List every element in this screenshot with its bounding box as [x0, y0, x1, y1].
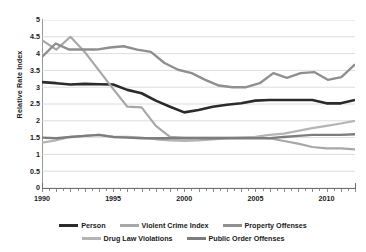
- legend-item[interactable]: Property Offenses: [223, 221, 307, 230]
- legend-row: Drug Law ViolationsPublic Order Offenses: [0, 232, 366, 245]
- x-tick-mark: [49, 189, 50, 191]
- x-tick-mark: [334, 189, 335, 191]
- legend-item[interactable]: Drug Law Violations: [82, 234, 173, 243]
- x-tick-mark: [355, 189, 356, 192]
- x-tick-mark: [255, 189, 256, 192]
- legend-label: Drug Law Violations: [104, 234, 173, 243]
- x-tick-mark: [291, 189, 292, 191]
- x-tick-mark: [113, 189, 114, 192]
- legend-item[interactable]: Violent Crime Index: [120, 221, 209, 230]
- legend-color-swatch: [82, 237, 101, 240]
- y-tick-label: 0: [0, 184, 40, 191]
- x-tick-mark: [134, 189, 135, 191]
- plot-area: [42, 20, 355, 188]
- x-tick-mark: [234, 189, 235, 191]
- legend-item[interactable]: Public Order Offenses: [187, 234, 285, 243]
- x-tick-mark: [319, 189, 320, 191]
- series-line: [42, 44, 355, 88]
- x-tick-mark: [42, 189, 43, 192]
- x-axis-end-cap: [355, 183, 356, 189]
- x-tick-mark: [248, 189, 249, 191]
- legend-label: Public Order Offenses: [209, 234, 285, 243]
- chart-legend: PersonViolent Crime IndexProperty Offens…: [0, 219, 366, 245]
- x-tick-mark: [99, 189, 100, 192]
- x-tick-mark: [312, 189, 313, 192]
- legend-color-swatch: [120, 224, 139, 227]
- x-tick-mark: [305, 189, 306, 191]
- x-tick-mark: [177, 189, 178, 191]
- legend-color-swatch: [59, 224, 78, 227]
- x-tick-label: 1990: [22, 194, 62, 203]
- x-tick-mark: [341, 189, 342, 192]
- y-tick-label: 1: [0, 151, 40, 158]
- x-tick-mark: [270, 189, 271, 192]
- x-tick-mark: [106, 189, 107, 191]
- legend-label: Property Offenses: [245, 221, 307, 230]
- x-tick-label: 2005: [235, 194, 275, 203]
- legend-label: Violent Crime Index: [142, 221, 209, 230]
- legend-row: PersonViolent Crime IndexProperty Offens…: [0, 219, 366, 232]
- legend-label: Person: [81, 221, 105, 230]
- x-tick-mark: [149, 189, 150, 191]
- y-tick-label: 0.5: [0, 168, 40, 175]
- x-tick-mark: [56, 189, 57, 192]
- x-tick-mark: [163, 189, 164, 191]
- x-axis-end-cap: [42, 183, 43, 189]
- x-tick-mark: [127, 189, 128, 192]
- x-tick-mark: [156, 189, 157, 192]
- x-tick-mark: [263, 189, 264, 191]
- x-tick-mark: [213, 189, 214, 192]
- x-tick-mark: [70, 189, 71, 192]
- legend-item[interactable]: Person: [59, 221, 105, 230]
- x-tick-mark: [220, 189, 221, 191]
- x-tick-mark: [327, 189, 328, 192]
- x-tick-mark: [284, 189, 285, 192]
- series-line: [42, 82, 355, 112]
- x-tick-mark: [298, 189, 299, 192]
- x-tick-mark: [184, 189, 185, 192]
- y-tick-label: 5: [0, 16, 40, 23]
- x-tick-mark: [78, 189, 79, 191]
- legend-color-swatch: [223, 224, 242, 227]
- x-tick-label: 2000: [164, 194, 204, 203]
- y-axis-title: Relative Rate Index: [15, 25, 24, 145]
- x-tick-mark: [142, 189, 143, 192]
- series-lines: [42, 20, 355, 188]
- x-tick-mark: [92, 189, 93, 191]
- x-tick-mark: [63, 189, 64, 191]
- x-tick-mark: [206, 189, 207, 191]
- legend-color-swatch: [187, 237, 206, 240]
- x-tick-mark: [241, 189, 242, 192]
- x-tick-mark: [170, 189, 171, 192]
- relative-rate-index-line-chart: 00.511.522.533.544.55 Relative Rate Inde…: [0, 0, 366, 252]
- x-tick-mark: [191, 189, 192, 191]
- x-tick-mark: [120, 189, 121, 191]
- x-tick-mark: [199, 189, 200, 192]
- x-tick-label: 2010: [307, 194, 347, 203]
- x-tick-mark: [85, 189, 86, 192]
- x-tick-mark: [348, 189, 349, 191]
- x-tick-label: 1995: [93, 194, 133, 203]
- x-tick-mark: [277, 189, 278, 191]
- x-tick-mark: [227, 189, 228, 192]
